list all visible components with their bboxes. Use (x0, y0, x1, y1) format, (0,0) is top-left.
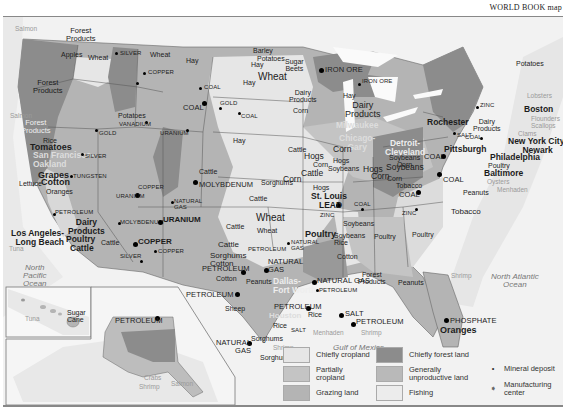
label-iron-ore-mi: IRON ORE (362, 78, 392, 84)
label-lettuce: Lettuce (19, 180, 42, 187)
swatch-partially-cropland (283, 366, 310, 382)
label-salmon-nw: Salmon (15, 26, 37, 33)
label-hay-mt: Hay (186, 57, 198, 64)
mineral-dot (319, 68, 324, 73)
label-zinc-tn: ZINC (402, 210, 416, 216)
legend-partially-cropland: Partially cropland (283, 366, 386, 382)
label-tungsten: TUNGSTEN (73, 173, 107, 179)
label-corn-mn: Corn (293, 107, 308, 114)
label-lobsters: Lobsters (527, 93, 552, 100)
label-petroleum-ca: PETROLEUM (55, 209, 93, 215)
label-copper-nm: COPPER (158, 248, 184, 254)
label-hogs-mo: Hogs (313, 184, 329, 191)
mineral-dot (235, 292, 240, 297)
label-natural-gas-nm: NATURAL GAS (174, 198, 202, 210)
label-philadelphia: Philadelphia (490, 153, 540, 162)
label-wheat-ok: Wheat (257, 227, 277, 234)
legend-label: Mineral deposit (504, 364, 555, 373)
label-cotton-ms: Cotton (337, 253, 358, 260)
label-forest-products-or: Forest Products (33, 79, 63, 94)
label-sorghums-tx1: Sorghums (251, 335, 283, 342)
swatch-chiefly-forest-land (376, 347, 403, 363)
label-north-pacific-ocean: North Pacific Ocean (23, 264, 47, 288)
swatch-grazing-land (283, 385, 310, 401)
mineral-dot (136, 82, 139, 85)
mineral-dot (154, 250, 157, 253)
label-forest-products-wa: Forest Products (66, 27, 96, 42)
label-coal-mt: COAL (204, 84, 221, 90)
mineral-dot (143, 72, 146, 75)
legend-chiefly-forest-land: Chiefly forest land (376, 347, 509, 363)
label-corn-ia: Corn (333, 145, 351, 154)
map-credit: WORLD BOOK map (489, 3, 562, 12)
label-poultry-ga: Poultry (412, 231, 434, 238)
label-lead: LEAD (319, 201, 342, 210)
mineral-dot (115, 52, 118, 55)
label-uranium-nm: URANIUM (163, 216, 201, 224)
label-forest-products-ca: Forest Products (21, 119, 51, 134)
label-cattle-ks: Cattle (249, 195, 267, 202)
label-uranium-wy: URANIUM (160, 130, 189, 136)
label-natural-gas-tx: NATURAL GAS (268, 258, 303, 273)
label-cattle-ia: Cattle (301, 169, 323, 178)
label-rice-tx: Rice (273, 322, 287, 329)
label-poultry-ar: Poultry (305, 230, 336, 239)
mineral-dot (361, 208, 364, 211)
label-soybeans-rice: Soybeans Rice (334, 232, 365, 246)
label-corn-in: Corn (387, 175, 402, 182)
legend-chiefly-cropland: Chiefly cropland (283, 347, 386, 363)
swatch-fishing (376, 385, 403, 401)
label-shrimp-ak: Shrimp (139, 384, 160, 391)
label-sheep: Sheep (225, 305, 245, 312)
mineral-dot (199, 87, 202, 90)
label-coal-wv: COAL (443, 176, 464, 184)
label-petroleum-ak: PETROLEUM (115, 317, 163, 325)
label-oranges-fl: Oranges (440, 326, 477, 335)
label-natural-gas-ok: NATURAL GAS (291, 239, 319, 251)
label-cattle-ca: Cattle (70, 244, 94, 253)
mineral-dot (140, 260, 143, 263)
label-north-atlantic-ocean: North Atlantic Ocean (491, 273, 539, 289)
label-milwaukee: Milwaukee (336, 121, 379, 130)
label-los-angeles-long-beach: Los Angeles- Long Beach (11, 229, 64, 246)
label-cotton-tx: Cotton (216, 275, 237, 282)
label-petroleum-ok: PETROLEUM (248, 246, 286, 252)
label-wheat-mt: Wheat (150, 51, 170, 58)
label-scallops: Scallops (531, 123, 556, 130)
label-coal-ky: COAL (399, 191, 420, 199)
label-silver-nv: SILVER (85, 153, 107, 159)
label-menhaden-atl: Menhaden (497, 187, 528, 194)
label-barley: Barley (253, 47, 273, 54)
mineral-dot (476, 106, 479, 109)
label-salt-tx: SALT (291, 327, 306, 333)
mineral-deposit-icon: • (488, 364, 498, 373)
label-hogs-ne: Hogs (304, 152, 324, 161)
label-wheat-wa: Wheat (88, 54, 108, 61)
label-oysters: Oysters (487, 179, 509, 186)
label-rochester: Rochester (427, 118, 469, 127)
label-hay-ne: Hay (233, 137, 245, 144)
label-soybeans-ia: Soybeans (328, 165, 359, 172)
label-salmon-ak: Salmon (171, 381, 193, 388)
label-dallas-fort-worth: Dallas- Fort Worth (273, 277, 316, 294)
label-tobacco-nc: Tobacco (451, 208, 481, 216)
label-tobacco-ky: Tobacco (396, 182, 422, 189)
mineral-dot (444, 318, 449, 323)
mineral-dot (287, 242, 290, 245)
label-gold-nv: GOLD (99, 130, 116, 136)
mineral-dot (358, 83, 361, 86)
label-dairy-mn: Dairy Products (289, 89, 317, 103)
label-potatoes-id: Potatoes (118, 112, 146, 119)
label-shrimp-atl: Shrimp (451, 273, 472, 280)
label-petroleum-gulf: PETROLEUM (356, 318, 404, 326)
label-zinc-ny: ZINC (480, 102, 494, 108)
label-natural-gas-s-tx: NATURAL GAS (216, 339, 251, 354)
label-uranium-ut: URANIUM (116, 193, 145, 199)
label-boston: Boston (524, 105, 553, 114)
label-cotton-ca: Cotton (41, 178, 70, 187)
label-petroleum-tx2: PETROLEUM (186, 291, 234, 299)
mineral-dot (81, 153, 84, 156)
label-vanadium: VANADIUM (119, 121, 151, 127)
label-potatoes-nd: Potatoes (257, 55, 285, 62)
label-copper-mt: COPPER (148, 69, 174, 75)
